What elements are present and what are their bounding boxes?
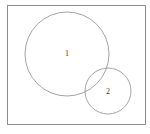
figure-canvas: 1 2	[0, 0, 150, 134]
venn-diagram-svg: 1 2	[0, 0, 150, 134]
circle-2-label: 2	[106, 87, 110, 96]
circle-1-label: 1	[65, 49, 69, 58]
